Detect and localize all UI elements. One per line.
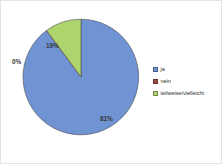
chart-legend: ja nein teilweise/vielleicht [151, 63, 222, 99]
data-label-teilweise: 19% [46, 42, 59, 49]
legend-item-ja[interactable]: ja [151, 63, 222, 75]
plot-area: 81% 19% 0% [1, 1, 151, 164]
pie-svg [22, 18, 140, 136]
data-label-ja: 81% [100, 115, 113, 122]
legend-label-teilweise: teilweise/vielleicht [161, 90, 204, 96]
legend-label-ja: ja [161, 66, 165, 72]
legend-item-nein[interactable]: nein [151, 75, 222, 87]
pie-chart-container: 81% 19% 0% ja nein teilweise/vielleicht [0, 0, 222, 164]
legend-label-nein: nein [161, 78, 171, 84]
legend-swatch-nein [153, 79, 158, 84]
data-label-nein: 0% [12, 58, 21, 65]
legend-item-teilweise[interactable]: teilweise/vielleicht [151, 87, 222, 99]
legend-swatch-ja [153, 67, 158, 72]
legend-swatch-teilweise [153, 91, 158, 96]
